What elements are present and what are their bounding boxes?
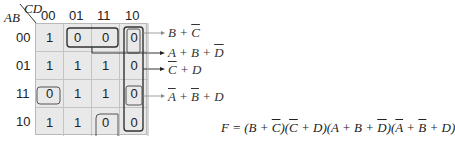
group-label-1: A + B + D — [168, 45, 224, 61]
loop-bottom — [96, 114, 118, 136]
group-label-3: A + B + D — [168, 89, 224, 105]
group-label-0: B + C — [168, 25, 200, 41]
result-formula: F = (B + C)(C + D)(A + B + D)(A + B + D) — [221, 120, 455, 136]
group-label-2: C + D — [168, 62, 201, 78]
loop-b-c — [67, 28, 118, 47]
loop-a-b-d-2-left — [37, 87, 60, 104]
loop-a-b-d-2-right — [126, 86, 142, 105]
loop-a-b-d — [127, 29, 140, 53]
